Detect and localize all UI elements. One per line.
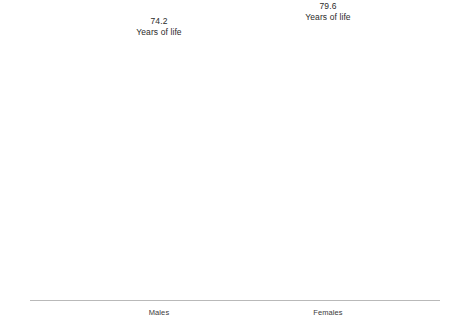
column-header-males: 74.2 Years of life <box>116 16 202 38</box>
axis-tick-label-males: Males <box>116 308 202 317</box>
axis-tick-label-females: Females <box>285 308 371 317</box>
total-value-females: 79.6 <box>285 1 371 12</box>
axis-baseline <box>30 300 440 301</box>
column-header-females: 79.6 Years of life <box>285 1 371 23</box>
total-unit-males: Years of life <box>116 27 202 38</box>
total-unit-females: Years of life <box>285 12 371 23</box>
total-value-males: 74.2 <box>116 16 202 27</box>
stacked-bar-chart: 74.2 Years of life 15.0 Years of illness… <box>0 0 463 331</box>
